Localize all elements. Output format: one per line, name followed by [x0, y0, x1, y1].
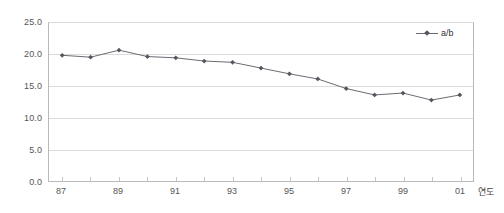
data-point	[145, 54, 150, 59]
data-point	[315, 77, 320, 82]
x-tick-label: 99	[398, 186, 408, 196]
y-tick-label: 5.0	[0, 145, 42, 155]
legend: a/b	[414, 28, 456, 39]
series-markers	[60, 48, 462, 103]
x-tick-label: 97	[341, 186, 351, 196]
y-tick-label: 25.0	[0, 17, 42, 27]
line-chart: 25.0 20.0 15.0 10.0 5.0 0.0 87 89	[0, 0, 504, 213]
x-tick-label: 89	[113, 186, 123, 196]
data-point	[259, 66, 264, 71]
data-point	[202, 59, 207, 64]
x-tick-label: 93	[227, 186, 237, 196]
data-point	[429, 98, 434, 103]
data-point	[287, 71, 292, 76]
x-tick-label: 87	[56, 186, 66, 196]
data-point	[457, 93, 462, 98]
data-point	[173, 55, 178, 60]
x-tick-label: 91	[170, 186, 180, 196]
y-tick-label: 0.0	[0, 177, 42, 187]
data-point	[372, 93, 377, 98]
legend-label: a/b	[441, 29, 454, 38]
y-tick-label: 10.0	[0, 113, 42, 123]
y-tick-label: 20.0	[0, 49, 42, 59]
legend-marker-icon	[416, 29, 438, 38]
data-point	[117, 48, 122, 53]
data-point	[230, 60, 235, 65]
x-tick-label: 01	[455, 186, 465, 196]
series-a-over-b	[48, 22, 474, 182]
y-tick-label: 15.0	[0, 81, 42, 91]
data-point	[88, 55, 93, 60]
data-point	[60, 53, 65, 58]
series-line	[62, 50, 460, 100]
data-point	[344, 86, 349, 91]
x-axis-title: 연도	[478, 185, 494, 198]
data-point	[401, 91, 406, 96]
x-tick-label: 95	[284, 186, 294, 196]
